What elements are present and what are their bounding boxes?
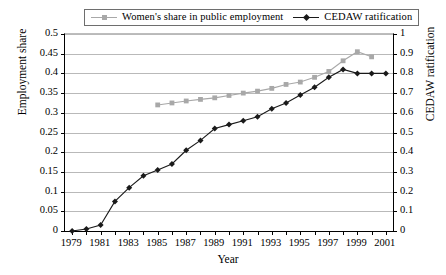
y-axis-left-tick-label: 0.05 [24,205,58,216]
series-layer [65,34,393,231]
series-marker [155,167,161,173]
y-axis-left-tick-label: 0.1 [24,186,58,197]
y-axis-right-tick [393,34,397,35]
series-marker [69,228,75,234]
y-axis-right-tick [393,73,397,74]
x-axis-tick-label: 2001 [365,238,405,249]
y-axis-left-tick-label: 0.4 [24,67,58,78]
series-marker [354,70,360,76]
series-marker [155,103,160,108]
series-marker [269,86,274,91]
series-marker [170,101,175,106]
x-axis-tick [329,231,330,235]
y-axis-right-tick [393,192,397,193]
y-axis-left-tick-label: 0 [24,225,58,236]
x-axis-tick [172,231,173,235]
x-axis-tick [343,231,344,235]
series-marker [241,91,246,96]
x-axis-tick [200,231,201,235]
x-axis-tick [158,231,159,235]
legend-item-cedaw: CEDAW ratification [293,12,412,23]
x-axis-tick [372,231,373,235]
x-axis-tick [243,231,244,235]
series-line [158,52,372,105]
series-marker [198,97,203,102]
plot-area [64,33,394,232]
series-marker [212,95,217,100]
y-axis-left-tick-label: 0.5 [24,28,58,39]
x-axis-tick [129,231,130,235]
x-axis-tick [386,231,387,235]
x-axis-tick [115,231,116,235]
legend-key-womens-share [91,13,117,22]
y-axis-left-tick-label: 0.2 [24,146,58,157]
series-marker [98,222,104,228]
y-axis-left-tick [61,231,65,232]
y-axis-right-title: CEDAW ratification [424,0,436,149]
series-marker [383,70,389,76]
series-womens-share [155,49,374,107]
series-marker [226,122,232,128]
y-axis-right-tick [393,133,397,134]
x-axis-tick [258,231,259,235]
y-axis-right-tick-label: 0 [400,225,434,236]
series-marker [369,70,375,76]
series-marker [340,66,346,72]
x-axis-tick [215,231,216,235]
y-axis-right-tick [393,211,397,212]
series-marker [284,82,289,87]
chart-legend: Women's share in public employment CEDAW… [84,9,419,26]
x-axis-title: Year [64,253,392,265]
legend-item-womens-share: Women's share in public employment [91,12,283,23]
series-marker [255,89,260,94]
legend-label-womens-share: Women's share in public employment [122,12,283,23]
legend-label-cedaw: CEDAW ratification [324,12,412,23]
series-marker [83,226,89,232]
y-axis-right-tick [393,172,397,173]
y-axis-right-tick [393,54,397,55]
x-axis-tick [143,231,144,235]
y-axis-right-tick-label: 0.3 [400,166,434,177]
x-axis-tick [101,231,102,235]
x-axis-tick [272,231,273,235]
series-cedaw [69,66,389,234]
y-axis-right-tick-label: 0.1 [400,205,434,216]
x-axis-tick [286,231,287,235]
series-marker [297,92,303,98]
x-axis-tick [229,231,230,235]
series-marker [312,75,317,80]
y-axis-left-tick-label: 0.25 [24,127,58,138]
legend-key-cedaw [293,13,319,22]
series-marker [341,58,346,63]
series-marker [255,114,261,120]
series-marker [227,93,232,98]
series-marker [283,100,289,106]
y-axis-right-tick [393,152,397,153]
y-axis-right-tick-label: 0.2 [400,186,434,197]
series-marker [369,54,374,59]
series-marker [326,69,331,74]
y-axis-left-tick-label: 0.3 [24,107,58,118]
y-axis-right-tick [393,113,397,114]
y-axis-left-tick-label: 0.45 [24,48,58,59]
y-axis-right-tick [393,231,397,232]
series-marker [184,99,189,104]
y-axis-left-title: Employment share [16,0,28,147]
series-marker [240,118,246,124]
x-axis-tick [186,231,187,235]
series-marker [298,80,303,85]
y-axis-left-tick-label: 0.35 [24,87,58,98]
x-axis-tick [357,231,358,235]
chart-figure: Women's share in public employment CEDAW… [0,0,446,275]
y-axis-right-tick [393,93,397,94]
x-axis-tick [300,231,301,235]
series-marker [355,49,360,54]
x-axis-tick [315,231,316,235]
y-axis-left-tick-label: 0.15 [24,166,58,177]
series-marker [269,106,275,112]
